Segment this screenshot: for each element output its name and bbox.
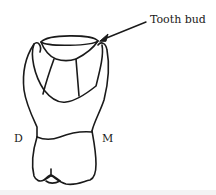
tooth-drawing <box>0 0 216 195</box>
tooth-bud-label: Tooth bud <box>150 14 206 25</box>
tooth-diagram: Tooth bud D M <box>0 0 216 195</box>
tooth-bud-arrow <box>100 22 146 41</box>
cej-line <box>37 132 92 140</box>
distal-label: D <box>14 133 23 144</box>
bud-stalk-lines <box>43 59 79 96</box>
mesial-label: M <box>102 133 113 144</box>
bottom-edge <box>0 190 216 195</box>
tooth-bud-shape <box>41 36 98 61</box>
